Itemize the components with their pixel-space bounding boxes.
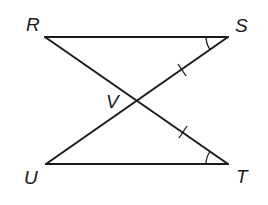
- vertex-label-v: V: [106, 92, 119, 111]
- vertex-label-u: U: [24, 168, 38, 187]
- vertex-label-s: S: [235, 16, 248, 35]
- vertex-label-t: T: [236, 167, 248, 186]
- vertex-label-r: R: [26, 15, 40, 34]
- geometry-diagram: [0, 0, 268, 205]
- angle-arc-t: [206, 152, 210, 165]
- angle-arc-s: [206, 37, 210, 50]
